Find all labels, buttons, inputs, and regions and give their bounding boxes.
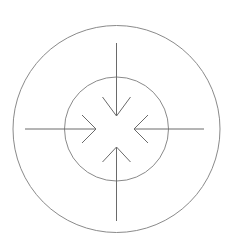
converging-arrows-diagram (0, 0, 234, 249)
arrow-from-left (25, 115, 96, 143)
diagram-canvas (0, 0, 234, 249)
arrow-from-right (134, 115, 204, 143)
arrow-from-bottom (103, 147, 131, 221)
arrow-from-top (103, 43, 131, 116)
